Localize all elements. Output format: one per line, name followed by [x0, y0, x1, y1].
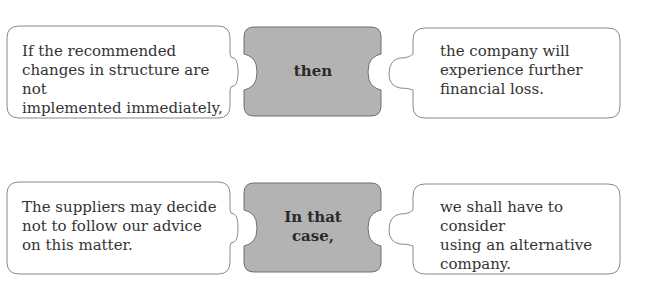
text-line: implemented immediately,: [22, 99, 232, 118]
text-line: financial loss.: [440, 80, 620, 99]
connector-text: then: [244, 62, 382, 81]
text-line: the company will: [440, 42, 620, 61]
text-line: using an alternative: [440, 236, 620, 255]
text-line: experience further: [440, 61, 620, 80]
text-line: The suppliers may decide: [22, 198, 232, 217]
connector-text: In that case,: [244, 208, 382, 246]
right-clause-text: the company will experience further fina…: [440, 42, 620, 99]
text-line: not to follow our advice: [22, 217, 232, 236]
text-line: on this matter.: [22, 236, 232, 255]
right-clause-text: we shall have to consider using an alter…: [440, 198, 620, 274]
text-line: then: [244, 62, 382, 81]
text-line: In that: [244, 208, 382, 227]
text-line: we shall have to consider: [440, 198, 620, 236]
text-line: If the recommended: [22, 42, 232, 61]
text-line: company.: [440, 255, 620, 274]
text-line: case,: [244, 227, 382, 246]
left-clause-text: The suppliers may decide not to follow o…: [22, 198, 232, 255]
sentence-row-2: The suppliers may decide not to follow o…: [0, 180, 651, 276]
text-line: changes in structure are not: [22, 61, 232, 99]
left-clause-text: If the recommended changes in structure …: [22, 42, 232, 118]
sentence-row-1: If the recommended changes in structure …: [0, 24, 651, 120]
